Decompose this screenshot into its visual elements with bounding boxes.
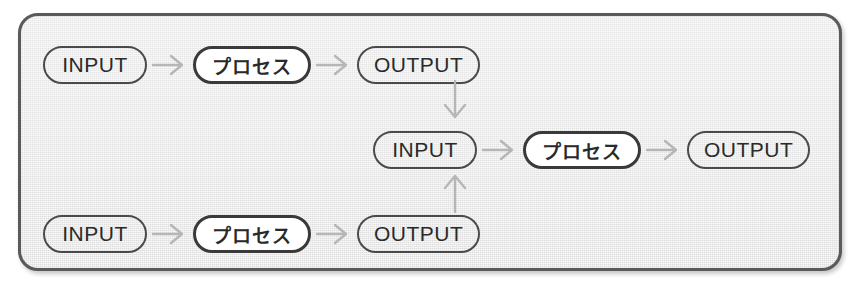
flow-row-bottom: INPUT プロセス OUTPUT [43,212,480,256]
arrow-down-icon [438,78,472,122]
arrow-right-icon [477,135,523,165]
node-output-bottom[interactable]: OUTPUT [357,215,480,253]
node-label: OUTPUT [374,53,463,77]
node-label: プロセス [212,52,292,79]
node-label: INPUT [62,222,128,246]
node-input-middle[interactable]: INPUT [373,131,477,169]
diagram-panel: INPUT プロセス OUTPUT I [18,13,842,271]
node-input-bottom[interactable]: INPUT [43,215,147,253]
node-output-middle[interactable]: OUTPUT [687,131,810,169]
node-process-top[interactable]: プロセス [193,46,311,84]
arrow-right-icon [311,219,357,249]
arrow-right-icon [147,219,193,249]
process-flow-diagram: INPUT プロセス OUTPUT I [0,0,864,302]
arrow-right-icon [311,50,357,80]
node-label: INPUT [392,138,458,162]
node-label: プロセス [212,221,292,248]
arrow-right-icon [641,135,687,165]
arrow-up-icon [438,171,472,215]
flow-row-middle: INPUT プロセス OUTPUT [373,128,810,172]
node-input-top[interactable]: INPUT [43,46,147,84]
node-process-middle[interactable]: プロセス [523,131,641,169]
node-process-bottom[interactable]: プロセス [193,215,311,253]
flow-row-top: INPUT プロセス OUTPUT [43,43,480,87]
node-label: OUTPUT [704,138,793,162]
node-label: プロセス [542,137,622,164]
arrow-right-icon [147,50,193,80]
node-label: OUTPUT [374,222,463,246]
node-label: INPUT [62,53,128,77]
